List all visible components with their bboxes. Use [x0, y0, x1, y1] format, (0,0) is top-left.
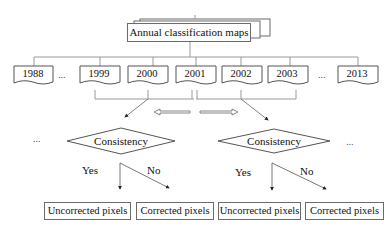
year-box-2003: 2003: [268, 66, 306, 82]
yes-label-2: Yes: [235, 166, 251, 178]
corrected-pixels-box-1: Corrected pixels: [136, 202, 214, 220]
year-box-2001: 2001: [176, 66, 214, 82]
annual-maps-box: Annual classification maps: [127, 23, 251, 42]
year-box-1988: 1988: [14, 66, 52, 82]
consistency-decision-2: Consistency: [244, 134, 304, 148]
ellipsis: ...: [58, 69, 66, 80]
yes-label-1: Yes: [82, 164, 98, 176]
no-label-2: No: [300, 165, 313, 177]
ellipsis-right: ...: [346, 136, 354, 147]
ellipsis-left: ...: [33, 133, 41, 144]
corrected-pixels-box-2: Corrected pixels: [305, 202, 384, 220]
year-box-2013: 2013: [338, 66, 376, 82]
consistency-decision-1: Consistency: [91, 134, 151, 148]
no-label-1: No: [147, 164, 160, 176]
ellipsis: ...: [318, 69, 326, 80]
uncorrected-pixels-box-2: Uncorrected pixels: [218, 202, 301, 220]
year-box-2000: 2000: [128, 66, 166, 82]
year-box-2002: 2002: [222, 66, 260, 82]
uncorrected-pixels-box-1: Uncorrected pixels: [44, 202, 131, 220]
year-box-1999: 1999: [80, 66, 118, 82]
